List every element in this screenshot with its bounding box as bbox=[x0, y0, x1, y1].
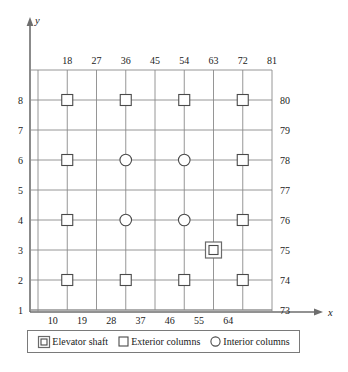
square-icon bbox=[117, 335, 130, 348]
exterior-column-marker bbox=[62, 275, 73, 286]
right-tick-label: 78 bbox=[280, 155, 290, 166]
bottom-tick-label: 55 bbox=[194, 315, 204, 326]
right-tick-label: 73 bbox=[280, 305, 290, 316]
left-tick-label: 3 bbox=[18, 245, 23, 256]
exterior-column-marker bbox=[120, 95, 131, 106]
y-axis-label: y bbox=[34, 15, 40, 26]
right-tick-label: 74 bbox=[280, 275, 290, 286]
bottom-tick-label: 10 bbox=[48, 315, 58, 326]
left-tick-label: 1 bbox=[18, 305, 23, 316]
circle-icon bbox=[209, 335, 222, 348]
legend-label-interior-columns: Interior columns bbox=[223, 337, 289, 347]
legend-item-exterior-columns: Exterior columns bbox=[117, 335, 200, 348]
right-tick-label: 77 bbox=[280, 185, 290, 196]
bottom-tick-label: 28 bbox=[106, 315, 116, 326]
interior-column-marker bbox=[178, 154, 190, 166]
floor-plan-figure: 1827364554637281101928374655648765432180… bbox=[0, 0, 348, 372]
exterior-column-marker bbox=[179, 275, 190, 286]
left-tick-label: 6 bbox=[18, 155, 23, 166]
bottom-tick-label: 37 bbox=[135, 315, 145, 326]
interior-column-marker bbox=[178, 214, 190, 226]
right-tick-label: 75 bbox=[280, 245, 290, 256]
interior-column-marker bbox=[120, 154, 132, 166]
x-axis-label: x bbox=[327, 307, 333, 318]
interior-column-marker bbox=[120, 214, 132, 226]
tick-label-group: 1827364554637281101928374655648765432180… bbox=[18, 55, 290, 326]
left-tick-label: 4 bbox=[18, 215, 23, 226]
top-tick-label: 72 bbox=[238, 55, 248, 66]
top-tick-label: 54 bbox=[179, 55, 189, 66]
exterior-column-marker bbox=[237, 95, 248, 106]
legend: Elevator shaft Exterior columns Interior… bbox=[27, 330, 300, 353]
right-tick-label: 79 bbox=[280, 125, 290, 136]
plot-svg: 1827364554637281101928374655648765432180… bbox=[0, 0, 348, 372]
top-tick-label: 36 bbox=[121, 55, 131, 66]
double-square-icon bbox=[37, 335, 51, 349]
top-tick-label: 45 bbox=[150, 55, 160, 66]
exterior-column-marker bbox=[179, 95, 190, 106]
left-tick-label: 7 bbox=[18, 125, 23, 136]
bottom-tick-label: 46 bbox=[165, 315, 175, 326]
exterior-column-marker bbox=[237, 275, 248, 286]
legend-item-interior-columns: Interior columns bbox=[209, 335, 289, 348]
top-tick-label: 81 bbox=[267, 55, 277, 66]
left-tick-label: 5 bbox=[18, 185, 23, 196]
legend-label-exterior-columns: Exterior columns bbox=[131, 337, 200, 347]
legend-label-elevator-shaft: Elevator shaft bbox=[52, 337, 108, 347]
elevator-shaft-marker-inner bbox=[209, 246, 218, 255]
right-tick-label: 80 bbox=[280, 95, 290, 106]
exterior-column-marker bbox=[62, 215, 73, 226]
top-tick-label: 63 bbox=[209, 55, 219, 66]
right-tick-label: 76 bbox=[280, 215, 290, 226]
left-tick-label: 2 bbox=[18, 275, 23, 286]
legend-item-elevator-shaft: Elevator shaft bbox=[37, 335, 108, 349]
exterior-column-marker bbox=[237, 215, 248, 226]
exterior-column-marker bbox=[237, 155, 248, 166]
top-tick-label: 18 bbox=[62, 55, 72, 66]
exterior-column-marker bbox=[120, 275, 131, 286]
exterior-column-marker bbox=[62, 155, 73, 166]
exterior-column-marker bbox=[62, 95, 73, 106]
top-tick-label: 27 bbox=[92, 55, 102, 66]
left-tick-label: 8 bbox=[18, 95, 23, 106]
bottom-tick-label: 64 bbox=[223, 315, 233, 326]
bottom-tick-label: 19 bbox=[77, 315, 87, 326]
